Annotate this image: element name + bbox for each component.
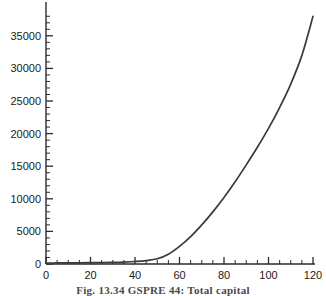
data-curve: [46, 16, 313, 263]
y-tick-label: 5000: [17, 225, 41, 237]
x-tick-label: 20: [84, 269, 96, 281]
y-tick-label: 15000: [10, 160, 41, 172]
figure-caption: Fig. 13.34 GSPRE 44: Total capital: [0, 284, 326, 296]
x-tick-label: 120: [304, 269, 322, 281]
y-tick-label: 30000: [10, 62, 41, 74]
figure-panel: 05000100001500020000250003000035000 0204…: [0, 0, 326, 296]
y-tick-label: 35000: [10, 30, 41, 42]
y-tick-label: 10000: [10, 193, 41, 205]
y-axis: 05000100001500020000250003000035000: [10, 2, 53, 270]
y-tick-label: 0: [35, 258, 41, 270]
x-tick-label: 80: [218, 269, 230, 281]
x-tick-label: 100: [259, 269, 277, 281]
data-series-group: [46, 16, 313, 263]
x-axis: 020406080100120: [43, 257, 322, 281]
y-tick-label: 25000: [10, 95, 41, 107]
y-tick-label: 20000: [10, 128, 41, 140]
x-tick-label: 0: [43, 269, 49, 281]
x-tick-label: 40: [129, 269, 141, 281]
line-chart: 05000100001500020000250003000035000 0204…: [0, 0, 326, 296]
x-tick-label: 60: [173, 269, 185, 281]
